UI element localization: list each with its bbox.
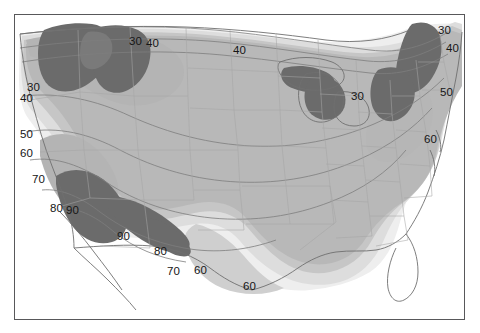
contour-label-80-south: 80 bbox=[154, 246, 167, 258]
contour-label-30-great-lakes: 30 bbox=[351, 91, 364, 103]
contour-label-60-south: 60 bbox=[194, 265, 207, 277]
contour-label-90-southwest: 90 bbox=[66, 205, 79, 217]
contour-label-30-northeast: 30 bbox=[438, 25, 451, 37]
contour-label-60-gulf: 60 bbox=[243, 281, 256, 293]
contour-label-40-east: 40 bbox=[446, 43, 459, 55]
contour-map-figure: 30 40 40 30 40 30 50 60 30 40 50 60 70 8… bbox=[0, 0, 480, 333]
contour-label-60-east: 60 bbox=[424, 134, 437, 146]
contour-label-70-south: 70 bbox=[167, 266, 180, 278]
contour-label-50-east: 50 bbox=[440, 87, 453, 99]
contour-label-80-southwest: 80 bbox=[50, 203, 63, 215]
contour-label-30: 30 bbox=[129, 36, 142, 48]
contour-label-40-west: 40 bbox=[20, 93, 33, 105]
contour-label-40-top-center: 40 bbox=[233, 45, 246, 57]
contour-label-70-west: 70 bbox=[32, 174, 45, 186]
contour-label-60-west: 60 bbox=[20, 148, 33, 160]
contour-label-50-west: 50 bbox=[20, 129, 33, 141]
contour-label-90-south: 90 bbox=[117, 231, 130, 243]
contour-label-40: 40 bbox=[146, 38, 159, 50]
